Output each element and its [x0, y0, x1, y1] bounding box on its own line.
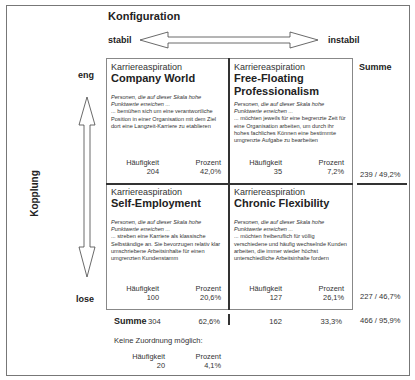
col-sum-label: Summe [114, 316, 147, 326]
axis-y-top-label: eng [78, 70, 94, 80]
freq-value: 100 [117, 293, 159, 302]
description-text: ... bemühen sich um eine verantwortliche… [111, 108, 216, 128]
quadrant-company-world: Karriereaspiration Company World Persone… [107, 60, 228, 183]
pct-value: 26,1% [302, 293, 344, 302]
freq-label: Häufigkeit [117, 284, 159, 293]
description-text: ... möchten jeweils für eine begrenzte Z… [234, 115, 346, 143]
pct-stat: Prozent 42,0% [179, 158, 221, 176]
pct-label: Prozent [183, 352, 221, 361]
pct-value: 20,6% [179, 293, 221, 302]
freq-label: Häufigkeit [117, 158, 159, 167]
freq-value: 204 [117, 167, 159, 176]
quadrant-description: Personen, die auf dieser Skala hohe Punk… [234, 219, 348, 262]
axis-y-bottom-label: lose [76, 294, 94, 304]
description-text: ... möchten freiberuflich für völlig ver… [234, 233, 347, 261]
freq-value: 20 [117, 361, 165, 370]
quadrant-description: Personen, die auf dieser Skala hohe Punk… [111, 219, 224, 262]
quadrant-kicker: Karriereaspiration [111, 62, 224, 72]
quadrant-free-floating-professionalism: Karriereaspiration Free-Floating Profess… [230, 60, 352, 183]
description-intro: Personen, die auf dieser Skala hohe Punk… [111, 94, 224, 108]
pct-value: 4,1% [183, 361, 221, 370]
pct-stat: Prozent 20,6% [179, 284, 221, 302]
unassigned-pct: Prozent 4,1% [183, 352, 221, 370]
quadrant-kicker: Karriereaspiration [111, 187, 224, 197]
quadrant-name: Company World [111, 72, 224, 85]
grand-total: 466 / 95,9% [360, 316, 401, 325]
quadrant-description: Personen, die auf dieser Skala hohe Punk… [234, 101, 348, 144]
diagram-title: Konfiguration [108, 10, 180, 22]
freq-label: Häufigkeit [240, 158, 282, 167]
quadrant-chronic-flexibility: Karriereaspiration Chronic Flexibility P… [230, 185, 352, 309]
sum-column-header: Summe [359, 62, 392, 72]
double-arrow-vertical-icon [77, 95, 97, 279]
col-sum-left-pct: 62,6% [190, 317, 220, 326]
row-sum-underline [357, 183, 407, 185]
pct-value: 42,0% [179, 167, 221, 176]
freq-stat: Häufigkeit 35 [240, 158, 282, 176]
sum-divider [228, 314, 230, 325]
freq-stat: Häufigkeit 127 [240, 284, 282, 302]
pct-label: Prozent [302, 284, 344, 293]
axis-y-title: Kopplung [29, 168, 40, 220]
row-sum-bottom: 227 / 46,7% [360, 292, 401, 301]
pct-value: 7,2% [302, 167, 344, 176]
row-sum-top: 239 / 49,2% [360, 170, 401, 179]
description-intro: Personen, die auf dieser Skala hohe Punk… [234, 219, 348, 233]
freq-label: Häufigkeit [240, 284, 282, 293]
double-arrow-horizontal-icon [138, 31, 322, 49]
pct-stat: Prozent 26,1% [302, 284, 344, 302]
freq-label: Häufigkeit [117, 352, 165, 361]
description-intro: Personen, die auf dieser Skala hohe Punk… [234, 101, 348, 115]
quadrant-name: Chronic Flexibility [234, 197, 348, 210]
unassigned-label: Keine Zuordnung möglich: [114, 336, 203, 345]
pct-label: Prozent [179, 284, 221, 293]
quadrant-kicker: Karriereaspiration [234, 187, 348, 197]
quadrant-description: Personen, die auf dieser Skala hohe Punk… [111, 94, 224, 130]
freq-value: 35 [240, 167, 282, 176]
pct-label: Prozent [302, 158, 344, 167]
pct-stat: Prozent 7,2% [302, 158, 344, 176]
freq-stat: Häufigkeit 100 [117, 284, 159, 302]
quadrant-name: Free-Floating Professionalism [234, 72, 348, 98]
quadrant-name: Self-Employment [111, 197, 224, 210]
col-sum-right-pct: 33,3% [312, 317, 342, 326]
col-sum-left-freq: 304 [148, 317, 161, 326]
unassigned-freq: Häufigkeit 20 [117, 352, 165, 370]
pct-label: Prozent [179, 158, 221, 167]
col-sum-right-freq: 162 [262, 317, 282, 326]
axis-x-right-label: instabil [328, 35, 360, 45]
axis-x-left-label: stabil [108, 35, 132, 45]
quadrant-kicker: Karriereaspiration [234, 62, 348, 72]
quadrant-self-employment: Karriereaspiration Self-Employment Perso… [107, 185, 228, 309]
freq-value: 127 [240, 293, 282, 302]
description-text: ... streben eine Karriere als klassische… [111, 233, 220, 261]
freq-stat: Häufigkeit 204 [117, 158, 159, 176]
description-intro: Personen, die auf dieser Skala hohe Punk… [111, 219, 224, 233]
